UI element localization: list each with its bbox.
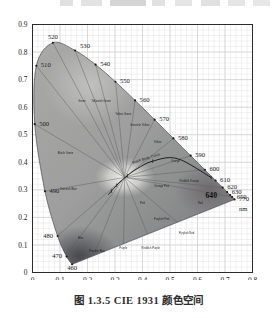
svg-text:Reddish Orange: Reddish Orange xyxy=(179,179,199,183)
svg-text:0.6: 0.6 xyxy=(18,103,28,112)
svg-text:480: 480 xyxy=(43,232,54,239)
svg-text:510: 510 xyxy=(41,61,52,68)
svg-text:nm: nm xyxy=(239,205,248,212)
svg-text:Blue: Blue xyxy=(78,236,84,240)
svg-text:0.7: 0.7 xyxy=(18,75,28,84)
svg-text:530: 530 xyxy=(80,42,91,49)
svg-text:Reddish Purple: Reddish Purple xyxy=(142,246,161,250)
svg-text:0.6: 0.6 xyxy=(193,276,203,281)
svg-text:Greenish Yellow: Greenish Yellow xyxy=(130,123,149,127)
svg-text:770: 770 xyxy=(239,195,250,202)
svg-text:Yellow: Yellow xyxy=(154,140,162,144)
svg-text:0.3: 0.3 xyxy=(18,185,28,194)
svg-text:640: 640 xyxy=(206,191,218,200)
svg-text:Green: Green xyxy=(78,99,86,103)
svg-text:Pink: Pink xyxy=(140,201,146,205)
svg-text:0.1: 0.1 xyxy=(55,276,65,281)
svg-text:0.4: 0.4 xyxy=(138,276,148,281)
svg-text:Greenish Blue: Greenish Blue xyxy=(60,187,78,191)
svg-text:0.9: 0.9 xyxy=(18,20,28,29)
svg-text:490: 490 xyxy=(49,187,60,194)
svg-text:0.5: 0.5 xyxy=(18,130,28,139)
svg-text:0.2: 0.2 xyxy=(18,213,28,222)
svg-text:600: 600 xyxy=(209,165,220,172)
svg-text:Bluish Green: Bluish Green xyxy=(58,151,74,155)
svg-text:470: 470 xyxy=(52,252,63,259)
svg-text:460: 460 xyxy=(67,264,78,271)
y-axis-tick-labels: 00.10.20.30.40.50.60.70.80.9 xyxy=(18,20,28,277)
svg-text:560: 560 xyxy=(140,96,151,103)
svg-text:Purplish Blue: Purplish Blue xyxy=(89,249,105,253)
svg-text:Red: Red xyxy=(198,201,203,205)
svg-text:540: 540 xyxy=(100,60,111,67)
cie-chromaticity-svg: Black Body Curve 46047048049050051052053… xyxy=(0,18,278,280)
svg-text:0.7: 0.7 xyxy=(220,276,230,281)
svg-text:0.4: 0.4 xyxy=(18,158,28,167)
svg-text:0: 0 xyxy=(31,276,35,281)
svg-text:Orange: Orange xyxy=(171,159,180,163)
svg-text:Orange Pink: Orange Pink xyxy=(154,184,170,188)
svg-text:0.2: 0.2 xyxy=(83,276,93,281)
chromaticity-diagram-plot: Black Body Curve 46047048049050051052053… xyxy=(0,18,278,280)
svg-text:590: 590 xyxy=(195,151,206,158)
svg-text:0.8: 0.8 xyxy=(18,48,28,57)
svg-text:0: 0 xyxy=(24,268,28,277)
svg-text:500: 500 xyxy=(39,120,50,127)
figure-caption: 图 1.3.5 CIE 1931 颜色空间 xyxy=(0,292,278,307)
svg-text:Purplish Pink: Purplish Pink xyxy=(154,217,170,221)
svg-text:520: 520 xyxy=(48,33,59,40)
svg-text:0.3: 0.3 xyxy=(110,276,120,281)
page-text-sliver xyxy=(60,0,270,6)
svg-text:550: 550 xyxy=(120,77,131,84)
svg-text:Purple: Purple xyxy=(119,246,127,250)
svg-text:Yellowish Green: Yellowish Green xyxy=(92,99,112,103)
svg-text:0.5: 0.5 xyxy=(165,276,175,281)
svg-text:Purplish Red: Purplish Red xyxy=(179,231,195,235)
svg-text:570: 570 xyxy=(159,115,170,122)
svg-text:Yellow Green: Yellow Green xyxy=(115,112,131,116)
svg-text:0.1: 0.1 xyxy=(18,241,28,250)
svg-text:0.8: 0.8 xyxy=(248,276,258,281)
svg-text:580: 580 xyxy=(178,134,189,141)
svg-text:610: 610 xyxy=(220,176,231,183)
figure-cie-1931-color-space: Black Body Curve 46047048049050051052053… xyxy=(0,0,278,318)
x-axis-tick-labels: 00.10.20.30.40.50.60.70.8 xyxy=(31,276,258,281)
